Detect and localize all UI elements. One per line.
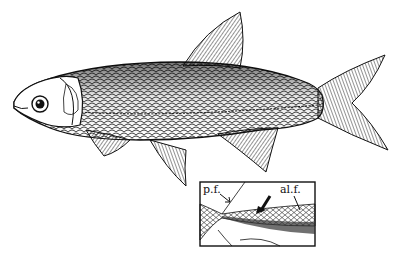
- label-alf: al.f.: [280, 184, 301, 195]
- caudal-fin: [318, 55, 388, 150]
- fish-head: [14, 76, 83, 127]
- pelvic-fin: [150, 140, 186, 186]
- dorsal-fin: [183, 12, 243, 68]
- fish-illustration: [0, 0, 400, 256]
- label-pf: p.f.: [203, 184, 221, 195]
- anal-fin: [218, 128, 278, 172]
